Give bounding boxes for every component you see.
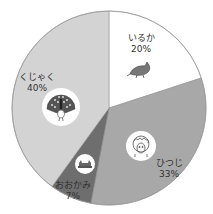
slice-name: いるか (128, 33, 155, 44)
slice-name: ひつじ (156, 158, 183, 169)
slice-percent: 7% (55, 191, 91, 202)
pie-chart (0, 0, 213, 214)
slice-percent: 40% (19, 83, 55, 94)
slice-name: くじゃく (19, 72, 55, 83)
label-peacock: くじゃく 40% (19, 72, 55, 94)
sheep-icon (126, 131, 156, 161)
slice-name: おおかみ (55, 180, 91, 191)
slice-percent: 20% (128, 44, 155, 55)
label-dolphin: いるか 20% (128, 33, 155, 55)
slice-percent: 33% (156, 169, 183, 180)
wolf-icon (75, 154, 95, 174)
label-sheep: ひつじ 33% (156, 158, 183, 180)
label-wolf: おおかみ 7% (55, 180, 91, 202)
